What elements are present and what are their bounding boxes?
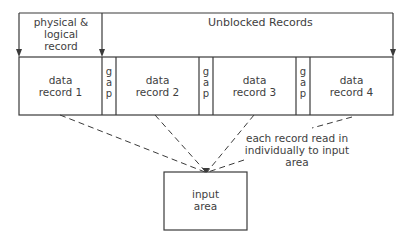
read-annotation: each record read in individually to inpu… (232, 132, 362, 168)
gap-3: g a p (296, 66, 310, 99)
data-record-3: data record 3 (213, 74, 296, 98)
input-area-label: input area (164, 188, 247, 212)
data-record-1: data record 1 (19, 74, 102, 98)
data-record-2: data record 2 (116, 74, 199, 98)
gap-1: g a p (102, 66, 116, 99)
physical-logical-record-label: physical & logical record (20, 16, 102, 52)
unblocked-records-label: Unblocked Records (208, 17, 313, 29)
data-record-4: data record 4 (310, 74, 393, 98)
gap-2: g a p (199, 66, 213, 99)
